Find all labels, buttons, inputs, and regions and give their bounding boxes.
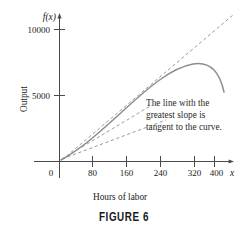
dashed-tangent-greatest-slope	[62, 15, 233, 160]
y-axis-symbol: f(x)	[43, 12, 56, 23]
x-tick-label-80: 80	[88, 168, 98, 178]
annotation-line-2: greatest slope is	[146, 110, 205, 122]
y-axis-arrow-icon	[57, 13, 61, 19]
annotation-line-3: tangent to the curve.	[146, 122, 222, 134]
annotation-line-1: The line with the	[146, 98, 209, 110]
origin-label: 0	[49, 168, 54, 178]
x-axis-arrow-icon	[229, 160, 234, 164]
x-tick-label-320: 320	[188, 168, 202, 178]
figure-container: 10000 5000 0 80 160 240 320 400 f(x) x T…	[0, 0, 247, 233]
figure-caption: FIGURE 6	[99, 210, 149, 224]
y-tick-label-10000: 10000	[28, 25, 51, 35]
y-axis-title: Output	[19, 86, 29, 112]
x-tick-label-400: 400	[210, 168, 224, 178]
x-axis-title: Hours of labor	[93, 192, 147, 202]
x-tick-label-160: 160	[120, 168, 134, 178]
x-tick-label-240: 240	[154, 168, 168, 178]
y-tick-label-5000: 5000	[32, 91, 51, 101]
x-axis-symbol: x	[229, 168, 235, 178]
